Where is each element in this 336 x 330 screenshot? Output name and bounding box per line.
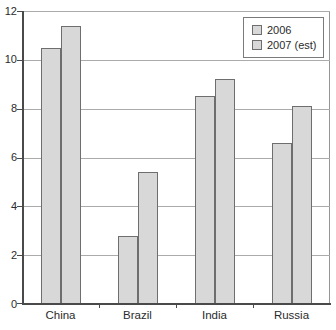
y-axis-label-12: 12 bbox=[0, 5, 17, 18]
x-axis-line bbox=[22, 303, 331, 305]
bar-2007-est--india bbox=[215, 79, 235, 304]
y-axis-label-4: 4 bbox=[0, 200, 17, 213]
y-axis-label-0: 0 bbox=[0, 298, 17, 311]
y-axis-label-10: 10 bbox=[0, 53, 17, 66]
x-axis-label-india: India bbox=[176, 308, 253, 322]
bar-2006-india bbox=[195, 96, 215, 304]
y-axis-label-2: 2 bbox=[0, 249, 17, 262]
bar-2007-est--russia bbox=[292, 106, 312, 304]
y-axis-label-6: 6 bbox=[0, 151, 17, 164]
bar-2007-est--china bbox=[61, 26, 81, 304]
y-axis-label-8: 8 bbox=[0, 102, 17, 115]
grouped-bar-chart: 024681012ChinaBrazilIndiaRussia 2006 200… bbox=[0, 0, 336, 330]
gridline-12 bbox=[22, 11, 330, 12]
x-axis-label-russia: Russia bbox=[253, 308, 330, 322]
legend-item-2007-est: 2007 (est) bbox=[252, 39, 323, 51]
x-axis-label-brazil: Brazil bbox=[99, 308, 176, 322]
x-tick-boundary-2 bbox=[176, 304, 177, 308]
legend-item-2006: 2006 bbox=[252, 24, 323, 36]
legend-label-2007-est: 2007 (est) bbox=[267, 39, 317, 51]
legend-swatch-2006 bbox=[252, 25, 262, 35]
bar-2006-russia bbox=[272, 143, 292, 304]
x-tick-boundary-3 bbox=[253, 304, 254, 308]
legend-swatch-2007-est bbox=[252, 40, 262, 50]
x-tick-boundary-1 bbox=[99, 304, 100, 308]
legend: 2006 2007 (est) bbox=[243, 17, 324, 58]
x-axis-label-china: China bbox=[22, 308, 99, 322]
y-axis-line bbox=[22, 11, 24, 305]
bar-2007-est--brazil bbox=[138, 172, 158, 304]
legend-label-2006: 2006 bbox=[267, 24, 291, 36]
bar-2006-china bbox=[41, 48, 61, 304]
bar-2006-brazil bbox=[118, 236, 138, 304]
